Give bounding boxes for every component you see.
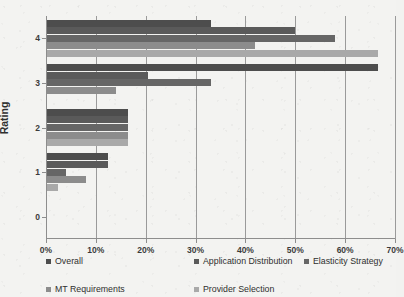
y-axis-tick [42, 217, 46, 218]
y-axis-title: Rating [0, 102, 10, 135]
legend-row: OverallApplication DistributionElasticit… [46, 256, 386, 270]
y-axis-tick [42, 172, 46, 173]
legend-item[interactable]: MT Requirements [46, 284, 125, 294]
x-axis-tick [245, 239, 246, 243]
bar [46, 20, 211, 27]
x-axis-tick [96, 239, 97, 243]
legend-swatch-icon [46, 259, 51, 264]
legend-item[interactable]: Provider Selection [194, 284, 274, 294]
y-axis-tick [42, 128, 46, 129]
bar [46, 87, 116, 94]
x-axis-tick-label: 20% [137, 245, 154, 255]
y-axis-line [46, 16, 47, 239]
plot-area [46, 16, 395, 239]
x-axis-tick [345, 239, 346, 243]
legend-label: Provider Selection [203, 284, 274, 294]
x-axis-tick-label: 70% [386, 245, 403, 255]
legend-item[interactable]: Elasticity Strategy [304, 256, 383, 266]
legend-swatch-icon [194, 259, 199, 264]
legend-swatch-icon [194, 287, 199, 292]
bar [46, 42, 255, 49]
legend-label: MT Requirements [55, 284, 125, 294]
y-axis-tick-label: 2 [20, 123, 40, 133]
x-axis-line [46, 238, 395, 239]
chart-legend: OverallApplication DistributionElasticit… [46, 256, 386, 284]
bar [46, 64, 378, 71]
x-axis-tick-label: 30% [187, 245, 204, 255]
legend-label: Elasticity Strategy [313, 256, 383, 266]
x-axis-tick-label: 50% [287, 245, 304, 255]
bar [46, 153, 108, 160]
y-axis-tick [42, 38, 46, 39]
bar [46, 169, 66, 176]
legend-item[interactable]: Overall [46, 256, 83, 266]
y-axis-tick-label: 0 [20, 212, 40, 222]
bar [46, 139, 128, 146]
bar [46, 50, 378, 57]
x-axis-tick [146, 239, 147, 243]
x-axis-tick [295, 239, 296, 243]
bar [46, 109, 128, 116]
x-axis-tick [395, 239, 396, 243]
y-axis-tick-label: 3 [20, 78, 40, 88]
x-axis-tick-label: 0% [40, 245, 52, 255]
y-axis-tick-label: 1 [20, 167, 40, 177]
x-axis-tick-label: 40% [237, 245, 254, 255]
y-axis-tick-label: 4 [20, 33, 40, 43]
x-axis-tick [46, 239, 47, 243]
x-axis-tick [196, 239, 197, 243]
gridline [395, 16, 396, 239]
bar [46, 27, 295, 34]
bar [46, 184, 58, 191]
legend-row: MT RequirementsProvider Selection [46, 270, 386, 284]
bar [46, 79, 211, 86]
bar [46, 35, 335, 42]
x-axis-tick-label: 60% [337, 245, 354, 255]
legend-label: Overall [55, 256, 83, 266]
bar [46, 72, 148, 79]
legend-label: Application Distribution [203, 256, 292, 266]
legend-item[interactable]: Application Distribution [194, 256, 292, 266]
bar [46, 124, 128, 131]
bar [46, 176, 86, 183]
bar [46, 116, 128, 123]
legend-swatch-icon [304, 259, 309, 264]
bar [46, 161, 108, 168]
legend-swatch-icon [46, 287, 51, 292]
x-axis-tick-label: 10% [87, 245, 104, 255]
bar [46, 132, 128, 139]
y-axis-tick [42, 83, 46, 84]
